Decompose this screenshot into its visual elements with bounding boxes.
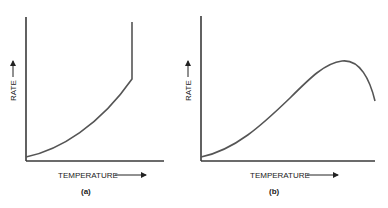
panel-a-y-label: RATE [9, 80, 18, 101]
panel-b-y-label: RATE [184, 80, 193, 101]
panel-a-y-label-group: RATE [9, 61, 18, 101]
panel-b-rate-curve [201, 61, 375, 157]
panel-b-caption: (b) [269, 187, 280, 196]
panel-b: RATE TEMPERATURE (b) [184, 16, 375, 196]
panel-b-y-label-group: RATE [184, 61, 193, 101]
panel-b-x-label: TEMPERATURE [250, 171, 310, 180]
panel-a-x-label: TEMPERATURE [58, 171, 118, 180]
panel-a-rate-curve [26, 22, 132, 157]
panel-a-caption: (a) [81, 187, 91, 196]
figure: RATE TEMPERATURE (a) RATE TEMPERATURE (b… [0, 0, 388, 208]
panel-a: RATE TEMPERATURE (a) [9, 17, 164, 196]
